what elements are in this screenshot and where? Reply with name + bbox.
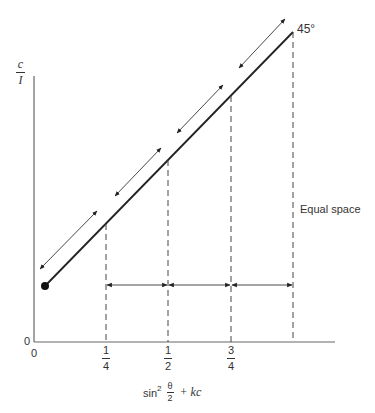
parallel-arrows bbox=[40, 19, 285, 269]
y-axis-label: c I bbox=[16, 59, 25, 86]
dashed-verticals bbox=[106, 32, 293, 342]
x-axis-label: sin 2 θ2 + kc bbox=[143, 382, 201, 403]
y-label-numerator: c bbox=[18, 59, 23, 70]
origin-x-label: 0 bbox=[31, 347, 37, 359]
origin-y-label: 0 bbox=[24, 335, 30, 347]
angle-label: 45° bbox=[297, 22, 315, 36]
equal-space-label: Equal space bbox=[300, 203, 361, 215]
axes bbox=[34, 76, 335, 342]
tick-three-quarters: 34 bbox=[227, 345, 235, 372]
start-dot bbox=[41, 282, 49, 290]
tick-one-quarter: 14 bbox=[102, 345, 110, 372]
main-line bbox=[45, 32, 293, 286]
tick-one-half: 12 bbox=[164, 345, 172, 372]
y-label-denominator: I bbox=[19, 75, 23, 86]
